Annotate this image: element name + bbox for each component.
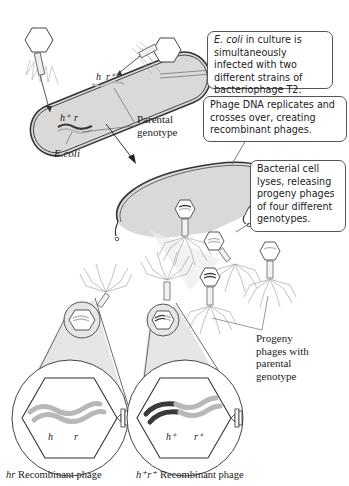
parent2-r-gene: r⁺ — [106, 71, 116, 82]
label-progeny-line4: genotype — [256, 370, 309, 383]
hprp-zoom: h⁺ r⁺ — [127, 303, 243, 476]
callout-infection: E. coli in culture is simultaneously inf… — [207, 31, 333, 89]
label-parental-line2: genotype — [137, 126, 177, 139]
label-hr-text: Recombinant phage — [15, 469, 101, 480]
label-hprp-recombinant: h⁺r⁺ Recombinant phage — [136, 469, 244, 482]
label-hprp-text: Recombinant phage — [157, 469, 243, 480]
label-hr-recombinant: hr Recombinant phage — [6, 469, 102, 482]
hr-r-gene: r — [74, 431, 78, 442]
callout-lysis: Bacterial cell lyses, releasing progeny … — [250, 160, 346, 232]
callout-lysis-text: Bacterial cell lyses, releasing progeny … — [257, 163, 335, 224]
progeny-phage-hr — [80, 264, 132, 307]
hprp-r-gene: r⁺ — [194, 431, 204, 442]
hr-h-gene: h — [48, 431, 53, 442]
progeny-phage-4 — [244, 242, 296, 307]
parent2-h-gene: h — [96, 71, 101, 82]
infecting-phage-left — [25, 28, 58, 112]
label-parental-line1: Parental — [137, 113, 177, 126]
label-progeny-line3: parental — [256, 357, 309, 370]
label-progeny-parental: Progeny phages with parental genotype — [256, 332, 309, 382]
parent1-h-gene: h⁺ — [60, 112, 71, 123]
label-hprp-italic: h⁺r⁺ — [136, 469, 157, 480]
callout-replication-text: Phage DNA replicates and crosses over, c… — [210, 99, 335, 135]
label-progeny-line1: Progeny — [256, 332, 309, 345]
ecoli-cell — [23, 44, 219, 163]
callout-infection-italic: E. coli — [214, 34, 243, 45]
parent1-r-gene: r — [74, 112, 78, 123]
hr-zoom: h r — [10, 298, 130, 476]
label-hr-italic: hr — [6, 469, 15, 480]
label-ecoli: E.coli — [54, 147, 80, 160]
callout-replication: Phage DNA replicates and crosses over, c… — [203, 96, 347, 142]
hprp-h-gene: h⁺ — [166, 431, 177, 442]
label-progeny-line2: phages with — [256, 345, 309, 358]
lysing-cell — [115, 162, 270, 290]
label-parental-genotype: Parental genotype — [137, 113, 177, 138]
